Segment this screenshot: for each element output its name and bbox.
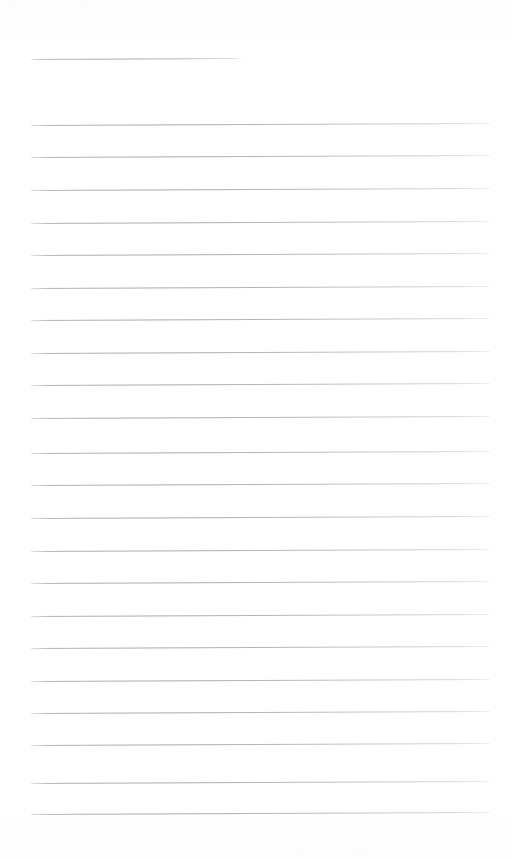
ruled-line — [31, 383, 490, 386]
ruled-lines-layer — [0, 0, 512, 859]
ruled-line — [31, 483, 490, 486]
ruled-line — [31, 711, 490, 714]
ruled-line — [31, 781, 490, 784]
scanned-page: Blank ruled notebook page — [0, 0, 512, 859]
ruled-line — [31, 221, 490, 224]
ruled-line — [31, 351, 490, 354]
title-rule — [31, 58, 243, 60]
ruled-line — [31, 123, 490, 126]
ruled-line — [31, 155, 490, 158]
ruled-line — [31, 679, 490, 682]
ruled-line — [31, 451, 490, 454]
ruled-line — [31, 743, 490, 746]
ruled-line — [31, 516, 490, 519]
ruled-line — [31, 646, 490, 649]
ruled-line — [31, 812, 490, 815]
ruled-line — [31, 286, 490, 289]
ruled-line — [31, 549, 490, 552]
ruled-line — [31, 581, 490, 584]
ruled-line — [31, 188, 490, 191]
ruled-line — [31, 318, 490, 321]
ruled-line — [31, 253, 490, 256]
ruled-line — [31, 416, 490, 419]
ruled-line — [31, 614, 490, 617]
